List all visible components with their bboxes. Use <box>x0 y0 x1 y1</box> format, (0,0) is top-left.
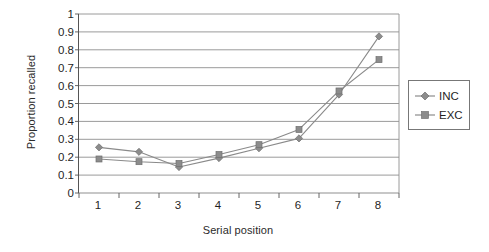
y-axis-tick-label: 1 <box>48 8 74 20</box>
x-axis-tick-label: 5 <box>246 199 270 211</box>
x-axis-tick-label: 3 <box>166 199 190 211</box>
x-axis-tick-label: 6 <box>286 199 310 211</box>
legend-label: INC <box>436 90 459 102</box>
marker-diamond <box>375 33 382 40</box>
legend-marker-square-icon <box>414 108 436 122</box>
marker-square <box>96 156 102 162</box>
marker-diamond <box>135 148 142 155</box>
y-axis-title: Proportion recalled <box>25 27 37 177</box>
legend-label: EXC <box>436 109 463 121</box>
x-axis-tick-label: 2 <box>126 199 150 211</box>
marker-square <box>336 88 342 94</box>
y-axis-tick-labels: 10.90.80.70.60.50.40.30.20.10 <box>48 8 74 194</box>
x-axis-tick-label: 7 <box>326 199 350 211</box>
legend-marker-diamond-icon <box>414 89 436 103</box>
plot-area <box>78 14 398 193</box>
marker-square <box>296 126 302 132</box>
y-axis-tick-label: 0.4 <box>48 115 74 127</box>
marker-square <box>256 142 262 148</box>
y-axis-tick-label: 0.8 <box>48 44 74 56</box>
x-axis-tick-label: 8 <box>366 199 390 211</box>
marker-square <box>376 57 382 63</box>
series-line-exc <box>99 60 379 164</box>
y-axis-tick-label: 0.5 <box>48 98 74 110</box>
y-axis-tick-label: 0.6 <box>48 80 74 92</box>
y-axis-tick-label: 0.1 <box>48 169 74 181</box>
marker-square <box>136 159 142 165</box>
chart-legend: INCEXC <box>408 80 470 130</box>
marker-diamond <box>95 144 102 151</box>
series-line-inc <box>99 36 379 167</box>
legend-entry-inc[interactable]: INC <box>414 86 465 105</box>
x-axis-tick-label: 1 <box>86 199 110 211</box>
y-axis-tick-label: 0.7 <box>48 62 74 74</box>
legend-marker-square <box>422 111 429 118</box>
marker-square <box>176 160 182 166</box>
marker-square <box>216 152 222 158</box>
x-axis-title: Serial position <box>78 224 398 236</box>
y-axis-tick-label: 0.9 <box>48 26 74 38</box>
legend-marker-diamond <box>421 92 429 100</box>
x-axis-tick-labels: 12345678 <box>78 199 398 217</box>
y-axis-tick-label: 0.3 <box>48 133 74 145</box>
y-axis-tick-label: 0.2 <box>48 151 74 163</box>
line-chart-figure: Proportion recalled 10.90.80.70.60.50.40… <box>0 0 489 252</box>
y-axis-tick-label: 0 <box>48 187 74 199</box>
x-axis-tick-label: 4 <box>206 199 230 211</box>
plot-svg <box>79 14 399 193</box>
legend-entry-exc[interactable]: EXC <box>414 105 465 124</box>
